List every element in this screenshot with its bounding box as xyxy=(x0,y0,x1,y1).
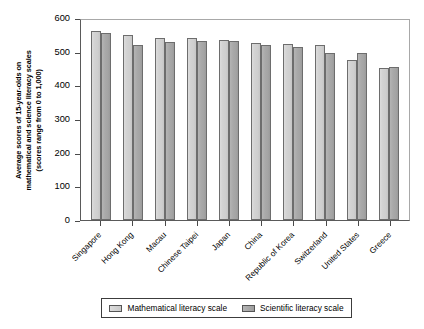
bar-mathematical[interactable] xyxy=(347,60,357,220)
x-axis-tick-mark xyxy=(100,221,101,226)
bar-scientific[interactable] xyxy=(133,45,143,220)
chart-figure: Average scores of 15-year-olds on mathem… xyxy=(0,0,424,329)
x-axis-tick-mark xyxy=(165,221,166,226)
x-axis-tick-mark xyxy=(358,221,359,226)
bar-groups xyxy=(81,20,409,220)
bar-mathematical[interactable] xyxy=(155,38,165,220)
legend-item[interactable]: Mathematical literacy scale xyxy=(109,303,227,313)
y-axis-title-line-1: Average scores of 15-year-olds on xyxy=(14,13,24,228)
bar-group xyxy=(219,20,239,220)
bar-group xyxy=(283,20,303,220)
bar-mathematical[interactable] xyxy=(251,43,261,220)
bar-mathematical[interactable] xyxy=(187,38,197,220)
y-axis-tick-label: 0 xyxy=(30,215,70,225)
x-axis-tick-mark xyxy=(390,221,391,226)
bar-scientific[interactable] xyxy=(325,53,335,220)
y-axis-tick-label: 500 xyxy=(30,47,70,57)
bar-group xyxy=(155,20,175,220)
y-axis-tick-label: 400 xyxy=(30,80,70,90)
y-axis-tick-label: 300 xyxy=(30,114,70,124)
legend-label: Mathematical literacy scale xyxy=(127,303,227,313)
bar-group xyxy=(251,20,271,220)
bar-scientific[interactable] xyxy=(165,42,175,220)
bar-mathematical[interactable] xyxy=(315,45,325,220)
y-axis-tick-label: 100 xyxy=(30,181,70,191)
x-axis-tick-mark xyxy=(197,221,198,226)
x-axis-tick-mark xyxy=(293,221,294,226)
legend-swatch-math xyxy=(109,305,122,312)
y-axis-tick-label: 600 xyxy=(30,13,70,23)
bar-group xyxy=(123,20,143,220)
bar-scientific[interactable] xyxy=(261,45,271,220)
legend-swatch-sci xyxy=(242,305,255,312)
chart-legend: Mathematical literacy scaleScientific li… xyxy=(101,298,352,318)
bar-group xyxy=(347,20,367,220)
bar-scientific[interactable] xyxy=(197,41,207,220)
bar-group xyxy=(315,20,335,220)
bar-mathematical[interactable] xyxy=(379,68,389,220)
y-axis-tick-mark xyxy=(75,221,80,222)
bar-group xyxy=(379,20,399,220)
bar-scientific[interactable] xyxy=(389,67,399,220)
bar-mathematical[interactable] xyxy=(123,35,133,220)
legend-item[interactable]: Scientific literacy scale xyxy=(242,303,343,313)
legend-label: Scientific literacy scale xyxy=(260,303,343,313)
bar-scientific[interactable] xyxy=(357,53,367,220)
bar-scientific[interactable] xyxy=(101,33,111,220)
bar-mathematical[interactable] xyxy=(91,31,101,220)
x-axis-tick-mark xyxy=(132,221,133,226)
bar-mathematical[interactable] xyxy=(219,40,229,220)
x-axis-tick-mark xyxy=(326,221,327,226)
bar-group xyxy=(91,20,111,220)
bar-scientific[interactable] xyxy=(293,47,303,220)
bar-group xyxy=(187,20,207,220)
x-axis-tick-mark xyxy=(229,221,230,226)
plot-area xyxy=(80,19,410,221)
bar-mathematical[interactable] xyxy=(283,44,293,220)
y-axis-tick-label: 200 xyxy=(30,148,70,158)
x-axis-tick-mark xyxy=(261,221,262,226)
bar-scientific[interactable] xyxy=(229,41,239,220)
